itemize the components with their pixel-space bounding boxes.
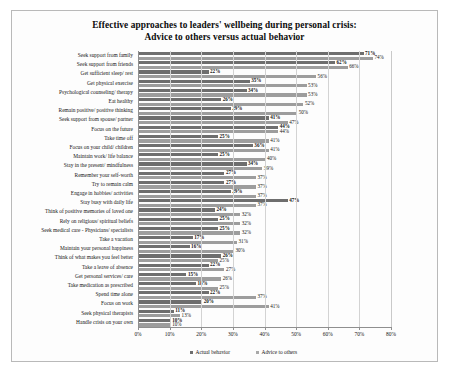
bar-actual-behavior [139,52,364,55]
x-axis [138,327,392,328]
category-label: Engage in hobbies/ activities [0,189,133,198]
x-tick-label: 40% [260,331,270,337]
gridline-40 [265,51,266,327]
bar-actual-behavior [139,208,215,211]
value-label-actual-behavior: 26% [223,97,233,102]
x-tick [170,327,171,330]
x-tick-label: 30% [228,331,238,337]
legend-item-advice[interactable]: Advice to others [256,349,297,355]
x-tick [138,327,139,330]
bar-actual-behavior [139,300,202,303]
bar-group: 34%39% [139,161,393,170]
category-label: Think of what makes you feel better [0,253,133,262]
chart-frame: Effective approaches to leaders' wellbei… [11,10,438,362]
category-label: Focus on work [0,299,133,308]
bar-actual-behavior [139,282,196,285]
bar-actual-behavior [139,126,278,129]
bar-actual-behavior [139,218,218,221]
category-label: Remember your self-worth [0,171,133,180]
bar-actual-behavior [139,190,231,193]
bar-actual-behavior [139,254,221,257]
bar-group: 25%40% [139,152,393,161]
x-tick-label: 60% [323,331,333,337]
x-tick [296,327,297,330]
category-label: Take a vacation [0,235,133,244]
category-label: Seek physical therapists [0,309,133,318]
category-label: Seek support from friends [0,60,133,69]
category-label: Spend time alone [0,290,133,299]
value-label-actual-behavior: 27% [226,180,236,185]
legend-item-actual[interactable]: Actual behavior [190,349,230,355]
bar-group: 29%50% [139,106,393,115]
x-tick-label: 50% [291,331,301,337]
value-label-actual-behavior: 16% [191,244,201,249]
category-label: Seek support from family [0,51,133,60]
bar-group: 36%41% [139,143,393,152]
bar-actual-behavior [139,70,209,73]
value-label-actual-behavior: 25% [220,216,230,221]
value-label-actual-behavior: 18% [197,281,207,286]
value-label-actual-behavior: 17% [194,235,204,240]
bar-actual-behavior [139,89,247,92]
category-label: Remain positive/ positive thinking [0,106,133,115]
category-label: Stay in the present/ mindfulness [0,161,133,170]
value-label-actual-behavior: 34% [248,161,258,166]
bar-group: 15%26% [139,272,393,281]
bar-group: 22%56% [139,69,393,78]
legend-swatch-icon [256,351,259,354]
chart-legend: Actual behaviorAdvice to others [138,349,392,361]
bar-group: 71%74% [139,51,393,60]
bar-actual-behavior [139,144,253,147]
bar-group: 41%47% [139,115,393,124]
bar-group: 47%37% [139,198,393,207]
category-label: Maintain your personal happiness [0,244,133,253]
bar-group: 24%32% [139,207,393,216]
category-label: Get sufficient sleep/ rest [0,69,133,78]
bar-actual-behavior [139,181,224,184]
legend-label: Advice to others [262,349,298,355]
category-label: Seek medical care - Physicians/ speciali… [0,226,133,235]
bar-actual-behavior [139,162,247,165]
bar-group: 29%37% [139,189,393,198]
category-label: Eat healthy [0,97,133,106]
x-tick-label: 70% [354,331,364,337]
bar-group: 27%37% [139,180,393,189]
x-tick-label: 10% [165,331,175,337]
bar-actual-behavior [139,273,186,276]
value-label-actual-behavior: 36% [254,143,264,148]
value-label-actual-behavior: 15% [188,272,198,277]
category-label: Get personal services/ care [0,272,133,281]
bar-group: 22%27% [139,263,393,272]
x-tick [328,327,329,330]
bar-actual-behavior [139,135,218,138]
bar-group: 22%37% [139,290,393,299]
legend-swatch-icon [190,351,193,354]
bar-group: 44%44% [139,125,393,134]
x-tick-label: 20% [196,331,206,337]
bar-actual-behavior [139,107,231,110]
value-label-actual-behavior: 25% [220,152,230,157]
category-label: Psychological counseling/ therapy [0,88,133,97]
value-label-actual-behavior: 22% [210,69,220,74]
bar-group: 26%25% [139,253,393,262]
x-tick [265,327,266,330]
bar-group: 25%32% [139,226,393,235]
value-label-actual-behavior: 41% [270,115,280,120]
category-label: Take time off [0,134,133,143]
bar-actual-behavior [139,310,174,313]
category-label: Stay busy with daily life [0,198,133,207]
bar-actual-behavior [139,153,218,156]
gridline-80 [391,51,392,327]
value-label-actual-behavior: 47% [289,198,299,203]
x-tick-label: 0% [134,331,141,337]
bar-group: 26%52% [139,97,393,106]
category-label: Handle crisis on your own [0,318,133,327]
chart-title-line-1: Effective approaches to leaders' wellbei… [12,19,437,31]
bar-group: 16%30% [139,244,393,253]
category-label: Focus on the future [0,125,133,134]
bar-actual-behavior [139,245,190,248]
category-label: Get physical exercise [0,79,133,88]
category-label: Think of positive memories of loved one [0,207,133,216]
gridline-10 [170,51,171,327]
value-label-actual-behavior: 22% [210,290,220,295]
